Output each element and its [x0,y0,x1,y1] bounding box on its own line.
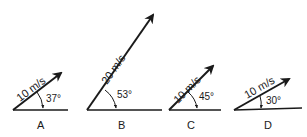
angle-arc-b [105,90,116,108]
baseline-d [234,108,302,110]
angle-arc-a [37,92,43,108]
label-a: A [37,119,45,131]
angle-arc-d [260,96,261,108]
vector-b: 20 m/s 53° B [87,15,162,131]
label-b: B [118,119,125,131]
angle-c: 45° [199,91,214,102]
magnitude-b: 20 m/s [99,52,128,86]
vector-c: 10 m/s 45° C [169,66,221,131]
vector-diagram: 10 m/s 37° A 20 m/s 53° B 10 m/s 45° C 1… [0,0,307,137]
angle-b: 53° [117,89,132,100]
label-c: C [187,119,195,131]
angle-a: 37° [46,93,61,104]
label-d: D [264,119,272,131]
angle-d: 30° [266,95,281,106]
vector-diagram-svg: 10 m/s 37° A 20 m/s 53° B 10 m/s 45° C 1… [0,0,307,137]
magnitude-a: 10 m/s [14,74,48,104]
vector-a: 10 m/s 37° A [13,73,68,131]
vector-d: 10 m/s 30° D [234,74,302,131]
